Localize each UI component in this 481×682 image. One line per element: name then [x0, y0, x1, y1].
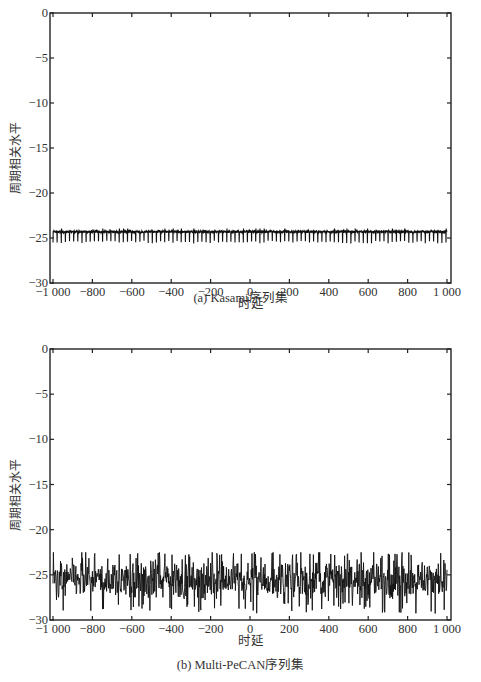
figure-canvas: 0−5−10−15−20−25−30−1 000−800−600−400−200…: [0, 0, 481, 682]
caption-b: (b) Multi-PeCAN序列集: [0, 654, 481, 673]
y-tick-label: −10: [28, 96, 48, 110]
x-tick-label: −200: [198, 622, 224, 636]
y-tick-label: −20: [28, 523, 48, 537]
y-tick-label: −5: [35, 51, 48, 65]
y-tick-label: −10: [28, 432, 48, 446]
y-tick-label: −5: [35, 387, 48, 401]
x-tick-label: −1 000: [35, 622, 70, 636]
plot-panel-a: 0−5−10−15−20−25−30−1 000−800−600−400−200…: [9, 6, 461, 311]
caption-a: (a) Kasami序列集: [0, 287, 481, 306]
y-tick-label: −25: [28, 568, 48, 582]
y-tick-label: −20: [28, 186, 48, 200]
axes-box: [50, 13, 451, 283]
x-tick-label: 600: [359, 622, 378, 636]
data-line-b: [53, 552, 447, 613]
x-axis-label: 时延: [238, 634, 264, 648]
y-tick-label: −15: [28, 141, 48, 155]
y-tick-label: 0: [42, 6, 48, 20]
y-axis-label: 周期相关水平: [9, 122, 23, 194]
plot-panel-b: 0−5−10−15−20−25−30−1 000−800−600−400−200…: [9, 342, 461, 648]
x-tick-label: 800: [398, 622, 417, 636]
data-line-a: [53, 229, 447, 244]
y-axis-label: 周期相关水平: [9, 459, 23, 531]
y-tick-label: −15: [28, 478, 48, 492]
y-tick-label: −25: [28, 231, 48, 245]
x-tick-label: 400: [319, 622, 338, 636]
x-tick-label: −400: [158, 622, 184, 636]
y-tick-label: 0: [42, 342, 48, 356]
x-tick-label: −600: [119, 622, 145, 636]
x-tick-label: −800: [79, 622, 105, 636]
x-tick-label: 200: [280, 622, 299, 636]
x-tick-label: 1 000: [433, 622, 461, 636]
